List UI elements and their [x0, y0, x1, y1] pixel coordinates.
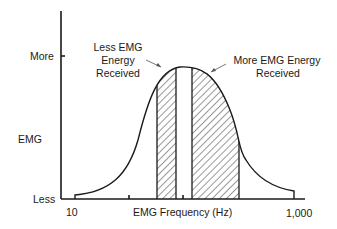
- y-axis-label: EMG: [18, 133, 42, 145]
- x-label-min: 10: [66, 206, 78, 218]
- y-label-less: Less: [33, 193, 55, 205]
- y-label-more: More: [30, 50, 54, 62]
- less-energy-label-line3: Received: [96, 67, 140, 79]
- more-energy-label-line1: More EMG Energy: [234, 54, 322, 66]
- x-label-max: 1,000: [286, 207, 312, 219]
- wide-band-fill: [192, 50, 239, 200]
- emg-spectrum-curve: [75, 67, 294, 199]
- x-axis-label: EMG Frequency (Hz): [133, 206, 232, 218]
- hatched-bands: [157, 50, 239, 200]
- less-energy-label-line1: Less EMG: [93, 41, 142, 53]
- less-energy-arrowhead: [156, 63, 161, 67]
- more-energy-arrowhead: [211, 68, 216, 72]
- emg-frequency-diagram: More EMG Less 10 EMG Frequency (Hz) 1,00…: [0, 0, 337, 229]
- more-energy-label-line2: Received: [256, 67, 300, 79]
- less-energy-label-line2: Energy: [101, 54, 135, 66]
